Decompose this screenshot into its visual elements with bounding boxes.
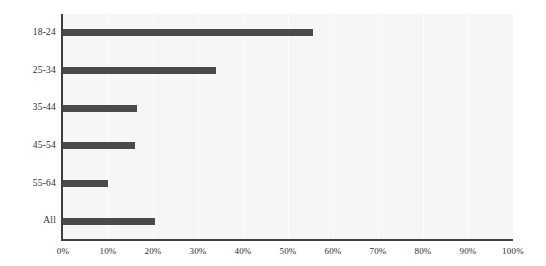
gridline bbox=[378, 14, 379, 240]
bar bbox=[63, 67, 216, 74]
plot-area bbox=[63, 14, 513, 240]
gridline bbox=[333, 14, 334, 240]
x-axis-tick-label: 40% bbox=[223, 246, 263, 256]
y-axis-line bbox=[61, 14, 63, 241]
y-axis-label: 18-24 bbox=[0, 27, 56, 37]
y-axis-label: 25-34 bbox=[0, 65, 56, 75]
x-axis-tick-label: 80% bbox=[403, 246, 443, 256]
gridline bbox=[243, 14, 244, 240]
gridline bbox=[423, 14, 424, 240]
x-axis-tick-label: 100% bbox=[493, 246, 533, 256]
x-axis-tick-label: 10% bbox=[88, 246, 128, 256]
x-axis-tick-label: 50% bbox=[268, 246, 308, 256]
bar bbox=[63, 180, 108, 187]
bar bbox=[63, 142, 135, 149]
x-axis-tick-label: 60% bbox=[313, 246, 353, 256]
gridline bbox=[288, 14, 289, 240]
x-axis-tick-label: 20% bbox=[133, 246, 173, 256]
x-axis-tick-label: 30% bbox=[178, 246, 218, 256]
gridline bbox=[153, 14, 154, 240]
gridline bbox=[108, 14, 109, 240]
y-axis-label: 35-44 bbox=[0, 102, 56, 112]
x-axis-tick-label: 90% bbox=[448, 246, 488, 256]
x-axis-line bbox=[61, 239, 513, 241]
bar bbox=[63, 105, 137, 112]
bar bbox=[63, 29, 313, 36]
bar-chart: 18-2425-3435-4445-5455-64All 0%10%20%30%… bbox=[0, 0, 546, 266]
y-axis-label: 45-54 bbox=[0, 140, 56, 150]
x-axis-tick-label: 0% bbox=[43, 246, 83, 256]
y-axis-label: All bbox=[0, 215, 56, 225]
gridline bbox=[468, 14, 469, 240]
y-axis-label: 55-64 bbox=[0, 178, 56, 188]
bar bbox=[63, 218, 155, 225]
x-axis-tick-label: 70% bbox=[358, 246, 398, 256]
gridline bbox=[198, 14, 199, 240]
